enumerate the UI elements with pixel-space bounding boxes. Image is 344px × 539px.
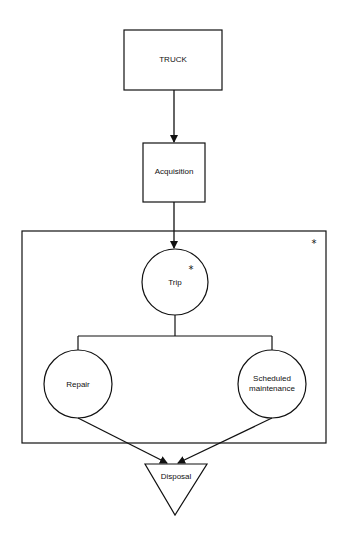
edge-scheduled-disposal: [178, 418, 272, 463]
repair-label: Repair: [66, 380, 90, 390]
trip-star-icon: *: [189, 265, 194, 275]
scheduled-maintenance-label-line2: maintenance: [242, 384, 302, 394]
acquisition-label: Acquisition: [155, 167, 194, 177]
diagram-canvas: [0, 0, 344, 539]
trip-label: Trip: [168, 278, 181, 288]
scheduled-maintenance-label: Scheduled maintenance: [242, 374, 302, 394]
truck-label: TRUCK: [159, 55, 187, 65]
disposal-label: Disposal: [161, 472, 192, 482]
edge-repair-disposal: [78, 418, 167, 463]
group-star-icon: *: [312, 239, 317, 249]
scheduled-maintenance-label-line1: Scheduled: [242, 374, 302, 384]
